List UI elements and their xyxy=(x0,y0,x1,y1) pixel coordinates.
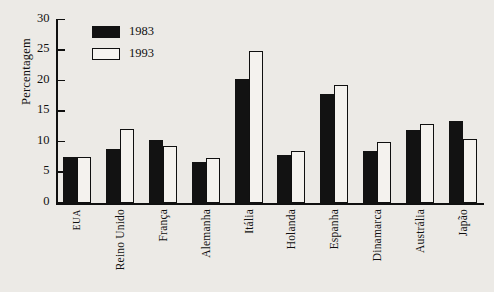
x-axis-line xyxy=(56,203,484,205)
x-tick-label: Japão xyxy=(457,209,469,236)
bar-1983 xyxy=(149,140,163,203)
y-tick-label: 5 xyxy=(43,163,49,178)
bar-group xyxy=(441,20,484,203)
bar-1993 xyxy=(420,124,434,203)
legend-swatch-1993 xyxy=(92,48,120,60)
x-label-cell: Espanha xyxy=(313,207,356,292)
bar-1983 xyxy=(320,94,334,203)
bar-1993 xyxy=(120,129,134,203)
x-label-cell: França xyxy=(142,207,185,292)
x-tick-label: Dinamarca xyxy=(371,209,383,261)
bar-group xyxy=(227,20,270,203)
bar-1993 xyxy=(334,85,348,203)
bar-chart: Percentagem 051015202530 EUAReino UnidoF… xyxy=(0,0,494,292)
y-tick-label: 20 xyxy=(37,72,50,87)
legend-label-1993: 1993 xyxy=(129,46,154,61)
x-label-cell: Reino Unido xyxy=(99,207,142,292)
x-tick-label: Itália xyxy=(243,209,255,234)
x-tick-label: EUA xyxy=(72,209,82,230)
x-tick-label: Espanha xyxy=(328,209,340,249)
legend-item-1993: 1993 xyxy=(92,46,154,61)
x-label-cell: Holanda xyxy=(270,207,313,292)
bar-1993 xyxy=(291,151,305,203)
x-tick-label: Holanda xyxy=(285,209,297,249)
x-label-cell: Itália xyxy=(227,207,270,292)
bar-1993 xyxy=(377,142,391,203)
y-tick-label: 25 xyxy=(37,41,50,56)
legend-label-1983: 1983 xyxy=(129,24,154,39)
x-axis-labels: EUAReino UnidoFrançaAlemanhaItáliaHoland… xyxy=(56,207,484,292)
y-tick-label: 0 xyxy=(43,194,49,209)
bar-group xyxy=(398,20,441,203)
bar-group xyxy=(313,20,356,203)
bar-group xyxy=(184,20,227,203)
bar-group xyxy=(356,20,399,203)
bar-1983 xyxy=(449,121,463,203)
bar-1983 xyxy=(406,130,420,203)
bar-1983 xyxy=(235,79,249,203)
x-label-cell: EUA xyxy=(56,207,99,292)
bar-1993 xyxy=(163,146,177,203)
bar-1983 xyxy=(277,155,291,203)
x-label-cell: Alemanha xyxy=(184,207,227,292)
y-axis-label: Percentagem xyxy=(19,2,34,142)
x-label-cell: Austrália xyxy=(398,207,441,292)
legend: 1983 1993 xyxy=(92,24,154,61)
bar-1983 xyxy=(363,151,377,203)
bar-1993 xyxy=(77,157,91,203)
bar-1993 xyxy=(249,51,263,203)
y-tick-label: 15 xyxy=(37,102,50,117)
bar-1993 xyxy=(206,158,220,203)
bar-1983 xyxy=(192,162,206,203)
x-label-cell: Dinamarca xyxy=(356,207,399,292)
bar-group xyxy=(270,20,313,203)
x-tick-label: Austrália xyxy=(414,209,426,253)
x-tick-label: França xyxy=(157,209,169,242)
y-tick-label: 10 xyxy=(37,133,50,148)
legend-swatch-1983 xyxy=(92,26,120,38)
bar-1993 xyxy=(463,139,477,203)
bar-1983 xyxy=(63,157,77,203)
x-tick-label: Alemanha xyxy=(200,209,212,258)
x-label-cell: Japão xyxy=(441,207,484,292)
y-tick-label: 30 xyxy=(37,11,50,26)
legend-item-1983: 1983 xyxy=(92,24,154,39)
x-tick-label: Reino Unido xyxy=(114,209,126,270)
bar-1983 xyxy=(106,149,120,203)
